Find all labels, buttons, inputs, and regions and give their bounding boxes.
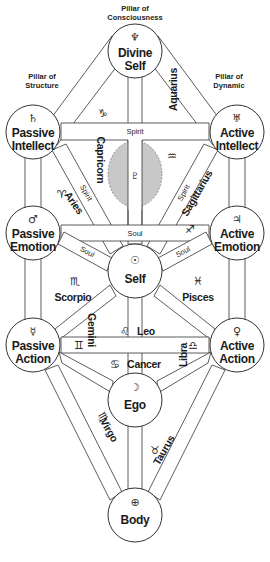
node-passive-intellect: ♄ Passive Intellect [6, 105, 60, 159]
gemini-icon: ♊ [74, 339, 84, 352]
uranus-icon: ♅ [232, 112, 242, 125]
libra-icon: ♎ [188, 339, 198, 352]
path-active-intellect-active-emotion [229, 155, 245, 210]
scorpio-icon: ♏ [70, 275, 80, 288]
pillar-consciousness-line2: Consciousness [107, 13, 162, 22]
sagittarius-icon: ♐ [185, 223, 195, 236]
soul-horizontal-label: Soul [127, 229, 142, 238]
active-action-label-2: Action [219, 352, 255, 366]
passive-emotion-label-1: Passive [12, 227, 55, 241]
spirit-horizontal-label: Spirit [126, 127, 144, 136]
jupiter-icon: ♃ [232, 213, 242, 226]
aquarius-icon: ♒ [167, 150, 177, 163]
node-body: ⊕ Body [108, 488, 162, 542]
moon-icon: ☽ [130, 381, 140, 394]
gemini-label: Gemini [86, 313, 98, 347]
node-self: ☉ Self [108, 244, 162, 298]
active-emotion-label-2: Emotion [214, 240, 260, 254]
active-intellect-label-1: Active [220, 126, 255, 140]
leo-icon: ♌ [120, 325, 130, 338]
path-passive-intellect-passive-emotion [25, 155, 41, 210]
node-active-intellect: ♅ Active Intellect [210, 105, 264, 159]
passive-emotion-label-2: Emotion [10, 240, 56, 254]
pluto-icon: ♇ [131, 171, 139, 181]
path-ego-body [128, 426, 142, 489]
neptune-icon: ♆ [130, 31, 140, 44]
cancer-icon: ♋ [110, 358, 120, 371]
node-divine-self: ♆ Divine Self [108, 24, 162, 78]
pillar-structure-line2: Structure [25, 81, 58, 90]
path-active-emotion-active-action [229, 256, 245, 322]
path-passive-emotion-passive-action [25, 256, 41, 322]
pillar-structure-line1: Pillar of [28, 72, 56, 81]
node-active-action: ♀ Active Action [210, 318, 264, 372]
mars-icon: ♂ [28, 213, 38, 226]
self-label: Self [125, 272, 147, 286]
active-intellect-label-2: Intellect [216, 139, 259, 153]
pillar-consciousness-line1: Pillar of [121, 4, 149, 13]
ego-label: Ego [124, 398, 146, 412]
taurus-icon: ♉ [150, 444, 160, 457]
pisces-label: Pisces [182, 291, 214, 303]
mercury-icon: ☿ [30, 325, 37, 338]
sun-icon: ☉ [130, 254, 140, 267]
divine-self-label-1: Divine [118, 46, 153, 60]
scorpio-label: Scorpio [55, 291, 92, 303]
leo-label: Leo [137, 325, 155, 337]
tree-of-life-diagram: ♇ Spirit Soul Spirit Spirit Soul Soul ♑ … [0, 0, 270, 562]
cancer-label: Cancer [127, 358, 161, 370]
pillar-dynamic-line2: Dynamic [213, 81, 244, 90]
venus-icon: ♀ [233, 325, 241, 338]
node-ego: ☽ Ego [108, 373, 162, 427]
passive-intellect-label-2: Intellect [12, 139, 55, 153]
earth-icon: ⊕ [130, 496, 139, 509]
passive-action-label-1: Passive [12, 339, 55, 353]
divine-self-label-2: Self [125, 59, 147, 73]
pisces-icon: ♓ [193, 275, 203, 288]
passive-intellect-label-1: Passive [12, 126, 55, 140]
node-passive-action: ☿ Passive Action [6, 318, 60, 372]
capricorn-icon: ♑ [98, 107, 108, 120]
active-emotion-label-1: Active [220, 227, 255, 241]
pillar-dynamic-line1: Pillar of [215, 72, 243, 81]
saturn-icon: ♄ [28, 112, 38, 125]
active-action-label-1: Active [220, 339, 255, 353]
node-passive-emotion: ♂ Passive Emotion [6, 206, 60, 260]
capricorn-label: Capricorn [95, 137, 107, 184]
passive-action-label-2: Action [15, 352, 51, 366]
body-label: Body [121, 513, 150, 527]
node-active-emotion: ♃ Active Emotion [210, 206, 264, 260]
aquarius-label: Aquarius [167, 68, 179, 112]
